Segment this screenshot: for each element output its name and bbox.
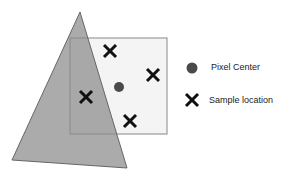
sampling-diagram — [0, 0, 285, 174]
legend-dot-icon — [187, 63, 198, 74]
legend-sample-location-label: Sample location — [209, 95, 273, 105]
pixel-center-dot — [114, 82, 124, 92]
legend-x-icon — [186, 94, 198, 106]
legend-pixel-center-label: Pixel Center — [211, 62, 260, 72]
